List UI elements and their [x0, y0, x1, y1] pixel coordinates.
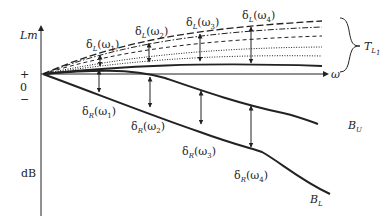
bu-label: BU [347, 119, 363, 134]
delta-l-omega3: δL(ω3) [186, 16, 219, 31]
brace [340, 18, 360, 72]
tracking-bound-curves [43, 21, 322, 74]
y-axis-label: Lm [19, 29, 38, 42]
delta-r-omega1: δR(ω1) [82, 105, 116, 120]
lower-bound-curve-bl [43, 74, 330, 194]
delta-l-omega4: δL(ω4) [242, 9, 275, 24]
delta-l-omega1: δL(ω1) [86, 38, 119, 53]
delta-r-omega2: δR(ω2) [131, 120, 165, 135]
bode-bounds-figure: Lm + 0 − dB ω TL1 δL(ω1) δL(ω2) δL(ω3) δ… [0, 0, 392, 216]
y-axis-unit: dB [21, 167, 36, 180]
brace-label: TL1 [364, 40, 380, 57]
bl-label: BL [309, 193, 323, 208]
lower-bound-curves [43, 71, 330, 194]
delta-l-omega2: δL(ω2) [135, 25, 168, 40]
y-tick-minus: − [20, 93, 29, 106]
delta-r-omega3: δR(ω3) [182, 145, 216, 160]
delta-r-omega4: δR(ω4) [234, 169, 268, 184]
x-axis-label: ω [331, 68, 340, 81]
y-tick-plus: + [20, 68, 29, 81]
